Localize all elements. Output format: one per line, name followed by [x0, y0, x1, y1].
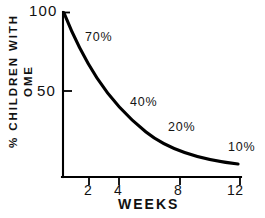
x-tick-label-12: 12 — [227, 182, 244, 198]
y-axis-title-line-1: % CHILDREN WITH — [6, 11, 21, 151]
curve-annotation-40: 40% — [130, 95, 157, 109]
x-axis-title: WEEKS — [118, 196, 179, 212]
curve-annotation-20: 20% — [168, 120, 195, 134]
y-tick-label-100: 100 — [29, 2, 58, 19]
chart-figure: % CHILDREN WITH OME 100 50 2 4 8 12 WEEK… — [0, 0, 265, 218]
y-axis-title: % CHILDREN WITH OME — [6, 11, 40, 151]
curve-annotation-70: 70% — [85, 30, 112, 44]
y-axis-title-line-2: OME — [21, 11, 36, 151]
x-tick-label-2: 2 — [84, 182, 92, 198]
y-tick-label-50: 50 — [37, 82, 56, 99]
curve-annotation-10: 10% — [228, 140, 255, 154]
